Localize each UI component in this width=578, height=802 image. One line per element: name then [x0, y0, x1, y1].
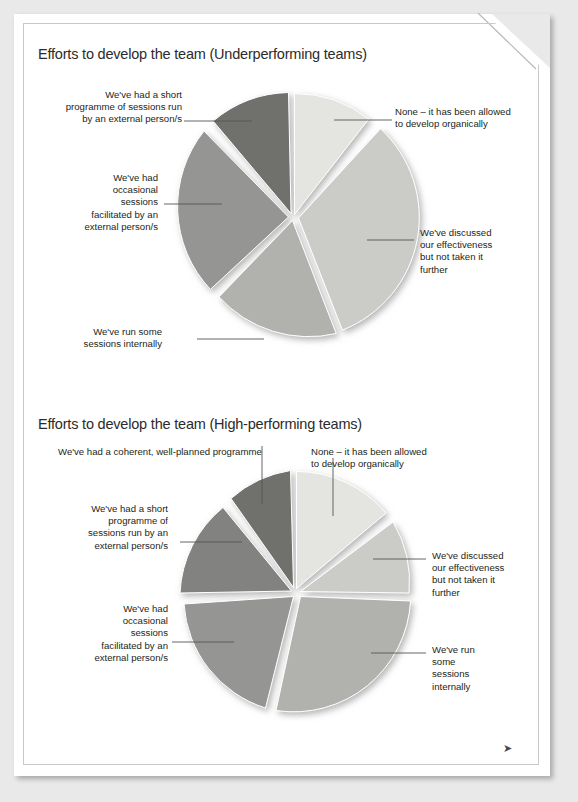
- pie-label-discussed-effectiveness: We've discussed our effectiveness but no…: [420, 227, 540, 276]
- pie-label-run-sessions-internally: We've run some sessions internally: [52, 326, 162, 350]
- pie-slice-occasional-facilitated: [184, 597, 294, 709]
- document-page: Efforts to develop the team (Underperfor…: [14, 14, 550, 776]
- pie-label-occasional-facilitated: We've had occasional sessions facilitate…: [54, 172, 158, 233]
- chart-underperforming-teams: Efforts to develop the team (Underperfor…: [14, 28, 550, 394]
- chart-high-performing-teams: Efforts to develop the team (High-perfor…: [14, 398, 550, 764]
- pie-slice-run-sessions-internally: [276, 597, 411, 712]
- pie-label-occasional-facilitated: We've had occasional sessions facilitate…: [58, 603, 168, 664]
- pie-label-none-organically: None – it has been allowed to develop or…: [311, 446, 471, 470]
- pie-label-short-programme: We've had a short programme of sessions …: [40, 89, 182, 126]
- pie-chart-high-performing: [142, 446, 452, 746]
- pie-label-coherent-programme: We've had a coherent, well-planned progr…: [58, 446, 298, 458]
- chart-title-underperforming: Efforts to develop the team (Underperfor…: [38, 46, 367, 62]
- pie-label-run-sessions-internally: We've run some sessions internally: [432, 644, 532, 693]
- chart-title-high-performing: Efforts to develop the team (High-perfor…: [38, 416, 362, 432]
- pie-label-none-organically: None – it has been allowed to develop or…: [395, 106, 545, 130]
- pie-label-discussed-effectiveness: We've discussed our effectiveness but no…: [432, 550, 548, 599]
- next-page-arrow-icon[interactable]: ➤: [503, 743, 512, 754]
- pie-label-short-programme: We've had a short programme of sessions …: [44, 503, 168, 552]
